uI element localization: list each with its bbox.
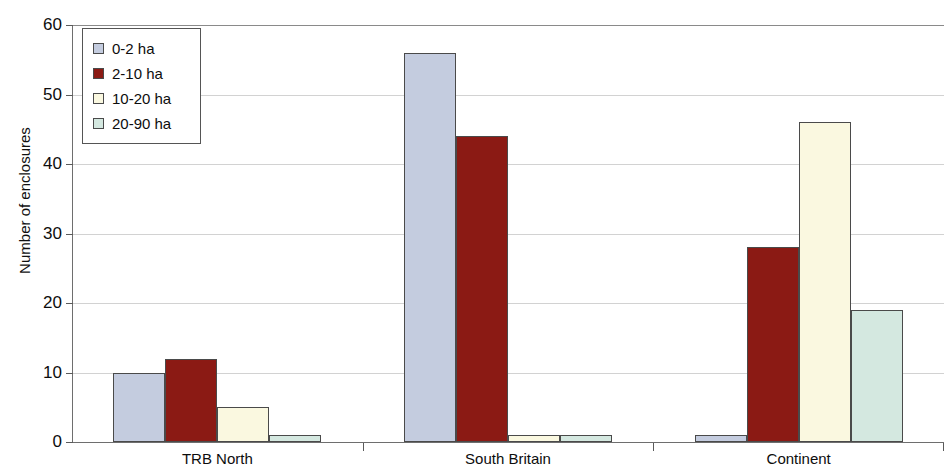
y-axis-tick-label: 10 — [22, 364, 62, 381]
y-axis-tick-labels: 6050403020100 — [22, 0, 62, 473]
legend-item: 2-10 ha — [93, 61, 186, 86]
bar — [695, 435, 747, 442]
legend-item: 10-20 ha — [93, 86, 186, 111]
y-axis-tick-label: 60 — [22, 16, 62, 33]
bar — [747, 247, 799, 442]
plot-area — [72, 25, 944, 442]
bar — [269, 435, 321, 442]
y-axis-tick-label: 50 — [22, 86, 62, 103]
y-axis-tick-mark — [66, 164, 73, 165]
y-axis-tick-label: 30 — [22, 225, 62, 242]
y-axis-tick-mark — [66, 303, 73, 304]
bar — [113, 373, 165, 443]
y-axis-tick-mark — [66, 373, 73, 374]
legend: 0-2 ha2-10 ha10-20 ha20-90 ha — [82, 28, 201, 144]
x-axis-line — [72, 442, 944, 443]
x-axis-category-label: Continent — [653, 450, 944, 467]
legend-item-label: 0-2 ha — [112, 41, 155, 56]
bar-chart: Number of enclosures 6050403020100 0-2 h… — [0, 0, 944, 473]
y-axis-tick-label: 0 — [22, 433, 62, 450]
y-axis-tick-mark — [66, 25, 73, 26]
bar — [456, 136, 508, 442]
gridline — [72, 95, 944, 96]
bar — [165, 359, 217, 442]
bar — [560, 435, 612, 442]
gridline — [72, 25, 944, 26]
legend-item-label: 20-90 ha — [112, 116, 171, 131]
bar — [851, 310, 903, 442]
x-axis-category-label: South Britain — [363, 450, 654, 467]
bar — [217, 407, 269, 442]
bar — [508, 435, 560, 442]
legend-swatch-icon — [93, 118, 104, 129]
y-axis-tick-mark — [66, 95, 73, 96]
legend-item-label: 2-10 ha — [112, 66, 163, 81]
legend-item-label: 10-20 ha — [112, 91, 171, 106]
bar — [404, 53, 456, 442]
y-axis-tick-mark — [66, 442, 73, 443]
bar — [799, 122, 851, 442]
legend-swatch-icon — [93, 68, 104, 79]
legend-swatch-icon — [93, 93, 104, 104]
x-axis-category-label: TRB North — [72, 450, 363, 467]
legend-item: 20-90 ha — [93, 111, 186, 136]
legend-item: 0-2 ha — [93, 36, 186, 61]
y-axis-tick-mark — [66, 234, 73, 235]
y-axis-tick-label: 40 — [22, 155, 62, 172]
y-axis-tick-label: 20 — [22, 294, 62, 311]
legend-swatch-icon — [93, 43, 104, 54]
